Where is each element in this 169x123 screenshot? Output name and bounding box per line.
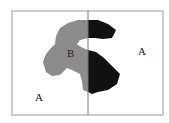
label-a-right: A <box>138 45 146 57</box>
diagram: A B A <box>0 0 169 123</box>
label-b-center: B <box>67 47 74 59</box>
label-a-left: A <box>35 91 43 103</box>
black-shape-region <box>88 20 116 39</box>
gray-shape-region-b <box>43 20 88 92</box>
black-shape-lower <box>88 50 120 94</box>
